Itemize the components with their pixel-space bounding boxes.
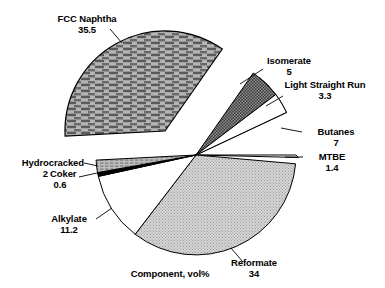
label-fcc-naphtha-name: FCC Naphtha	[57, 13, 116, 24]
label-alkylate-value: 11.2	[38, 224, 100, 235]
label-hydrocracked-value-wrap: 2	[4, 168, 48, 179]
label-reformate-value: 34	[218, 268, 290, 279]
label-light-straight-run-value: 3.3	[271, 90, 379, 101]
label-alkylate-name: Alkylate	[51, 213, 87, 224]
label-hydrocracked-value: 2	[43, 168, 48, 179]
label-isomerate-value: 5	[250, 66, 328, 77]
label-fcc-naphtha: FCC Naphtha 35.5	[42, 13, 132, 35]
label-hydrocracked: Hydrocracked	[4, 157, 84, 168]
label-light-straight-run: Light Straight Run 3.3	[271, 79, 379, 101]
leader-line-butanes	[281, 128, 302, 132]
label-coker-value-wrap: 0.6	[40, 179, 80, 190]
label-butanes-name: Butanes	[318, 126, 355, 137]
pie-slice-fcc-naphtha-group[interactable]	[65, 31, 222, 136]
label-mtbe-name: MTBE	[319, 151, 346, 162]
label-hydrocracked-name: Hydrocracked	[22, 157, 84, 168]
label-reformate: Reformate 34	[218, 257, 290, 279]
label-coker-value: 0.6	[54, 179, 67, 190]
label-isomerate: Isomerate 5	[250, 55, 328, 77]
label-butanes: Butanes 7	[305, 126, 367, 148]
label-mtbe-value: 1.4	[306, 162, 358, 173]
label-coker-name: Coker	[50, 168, 76, 179]
label-butanes-value: 7	[305, 137, 367, 148]
label-light-straight-run-name: Light Straight Run	[284, 79, 365, 90]
label-isomerate-name: Isomerate	[267, 55, 311, 66]
label-coker: Coker	[50, 168, 90, 179]
label-alkylate: Alkylate 11.2	[38, 213, 100, 235]
chart-caption: Component, vol%	[120, 268, 220, 279]
label-mtbe: MTBE 1.4	[306, 151, 358, 173]
label-fcc-naphtha-value: 35.5	[42, 24, 132, 35]
label-reformate-name: Reformate	[231, 257, 277, 268]
pie-slice-fcc-naphtha[interactable]	[65, 31, 222, 136]
pie-chart: FCC Naphtha 35.5 Isomerate 5 Light Strai…	[0, 0, 385, 288]
chart-caption-text: Component, vol%	[131, 268, 210, 279]
